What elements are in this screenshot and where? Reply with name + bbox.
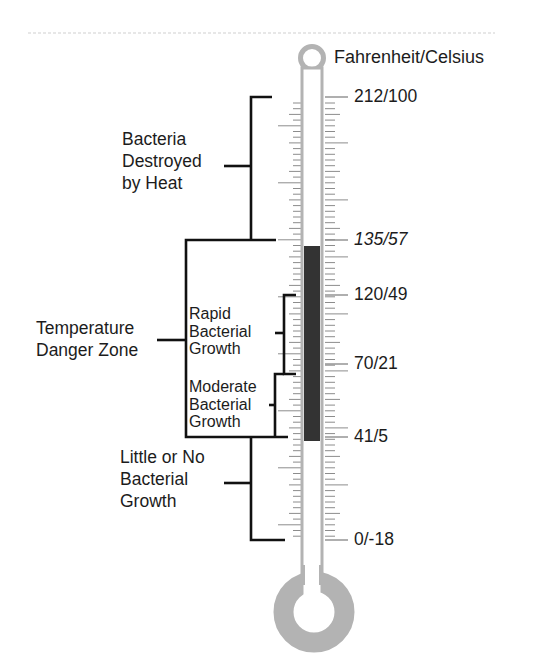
zone-label-line: Bacterial: [189, 396, 257, 414]
zone-label-line: Growth: [189, 413, 257, 431]
thermometer-diagram: Fahrenheit/Celsius 212/100135/57120/4970…: [0, 0, 542, 663]
zone-label-rapid: Rapid Bacterial Growth: [189, 305, 251, 358]
zone-label-little: Little or No Bacterial Growth: [120, 446, 205, 512]
zone-label-line: Growth: [189, 340, 251, 358]
zone-label-line: by Heat: [122, 172, 202, 194]
zone-label-line: Bacterial: [120, 468, 205, 490]
zone-label-line: Bacteria: [122, 128, 202, 150]
zone-label-line: Destroyed: [122, 150, 202, 172]
zone-label-line: Growth: [120, 490, 205, 512]
zone-label-line: Moderate: [189, 378, 257, 396]
zone-label-line: Temperature: [36, 317, 138, 339]
zone-label-line: Bacterial: [189, 323, 251, 341]
zone-label-moderate: Moderate Bacterial Growth: [189, 378, 257, 431]
scale-label: 135/57: [354, 229, 408, 249]
tube-joint: [304, 566, 321, 596]
zone-label-line: Little or No: [120, 446, 205, 468]
scale-label: 0/-18: [354, 529, 394, 549]
zone-label-danger: Temperature Danger Zone: [36, 317, 138, 361]
bracket-destroyed: [251, 97, 272, 240]
thermometer-top-loop: [301, 47, 324, 70]
scale-label: 212/100: [354, 86, 417, 106]
danger-zone-fill: [304, 246, 320, 441]
zone-label-line: Danger Zone: [36, 339, 138, 361]
zone-label-line: Rapid: [189, 305, 251, 323]
bracket-moderate: [275, 374, 284, 437]
scale-label: 120/49: [354, 284, 408, 304]
scale-label: 41/5: [354, 426, 388, 446]
bracket-rapid: [284, 295, 296, 374]
scale-title: Fahrenheit/Celsius: [334, 47, 484, 67]
zone-label-destroyed: Bacteria Destroyed by Heat: [122, 128, 202, 194]
scale-label: 70/21: [354, 353, 398, 373]
